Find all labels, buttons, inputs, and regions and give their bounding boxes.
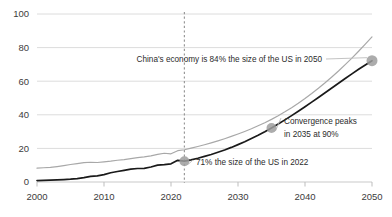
annotation-2050-label: China's economy is 84% the size of the U…: [137, 55, 323, 64]
annotation-2022-label: 71% the size of the US in 2022: [196, 158, 309, 167]
chart-container: 020406080100 200020102020203020402050 Ch…: [0, 0, 392, 217]
annotation-2035-label-line1: Convergence peaks: [284, 117, 357, 126]
annotation-text-layer: China's economy is 84% the size of the U…: [0, 0, 392, 217]
annotation-2035-label-line2: in 2035 at 90%: [284, 130, 339, 139]
